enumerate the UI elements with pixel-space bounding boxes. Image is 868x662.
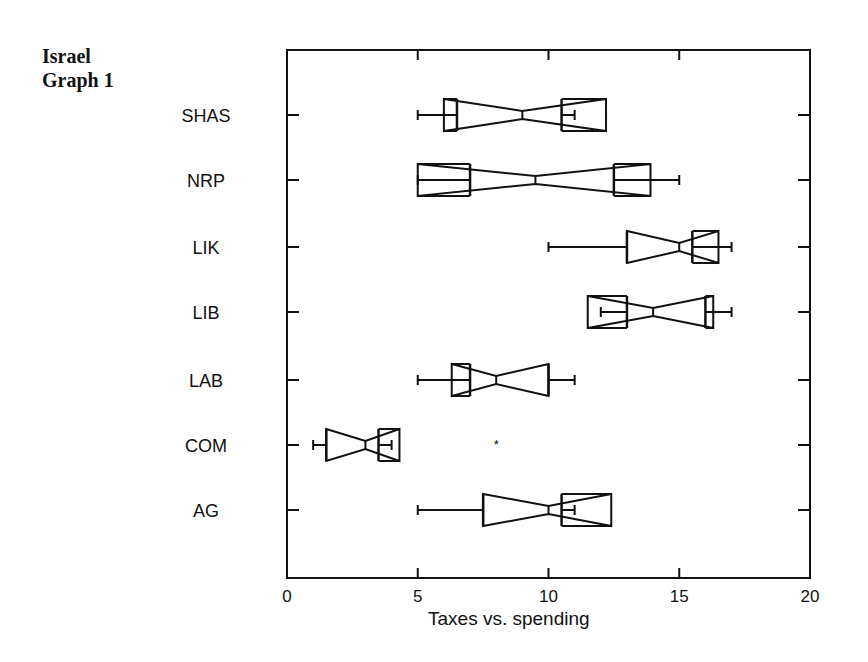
x-tick-label: 5 [413, 587, 422, 606]
notched-box-ag [483, 494, 611, 526]
x-axis-label: Taxes vs. spending [428, 608, 590, 630]
category-label-shas: SHAS [181, 106, 230, 126]
x-tick-label: 10 [539, 587, 558, 606]
outlier-marker: * [494, 437, 499, 452]
x-tick-label: 0 [282, 587, 291, 606]
category-label-lib: LIB [192, 303, 219, 323]
boxplot-chart: 05101520SHASNRPLIKLIBLABCOM*AG [0, 0, 868, 662]
category-label-lik: LIK [192, 238, 219, 258]
x-tick-label: 20 [801, 587, 820, 606]
category-label-com: COM [185, 436, 227, 456]
category-label-nrp: NRP [187, 171, 225, 191]
notched-box-shas [444, 99, 606, 131]
x-tick-label: 15 [670, 587, 689, 606]
category-label-lab: LAB [189, 371, 223, 391]
category-label-ag: AG [193, 501, 219, 521]
